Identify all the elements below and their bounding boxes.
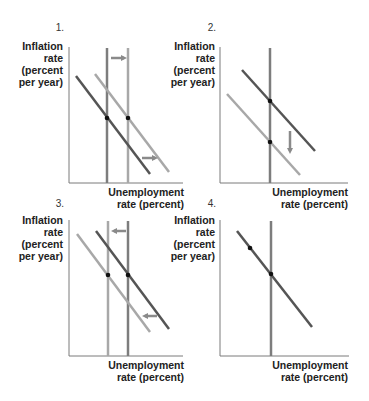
panel-3-axes — [69, 220, 183, 356]
panel-4-point-b — [269, 272, 274, 277]
panel-4 — [220, 220, 349, 356]
panel-1 — [69, 47, 183, 183]
panel-3 — [69, 220, 183, 356]
phillips-curve-diagram — [0, 0, 369, 401]
panel-2-point-b — [268, 140, 273, 145]
panel-4-point-a — [248, 246, 253, 251]
panel-4-axes — [220, 220, 349, 356]
panel-4-srpc — [237, 231, 312, 327]
panel-2-point-a — [268, 99, 273, 104]
panel-1-point-a — [105, 116, 110, 121]
panel-2-srpc-initial — [242, 70, 315, 151]
panel-1-srpc-initial — [76, 76, 150, 174]
panel-3-point-b — [126, 273, 131, 278]
panel-3-srpc-shifted — [77, 234, 150, 332]
panel-3-point-a — [106, 273, 111, 278]
panel-2 — [220, 47, 348, 183]
panel-1-point-b — [126, 116, 131, 121]
